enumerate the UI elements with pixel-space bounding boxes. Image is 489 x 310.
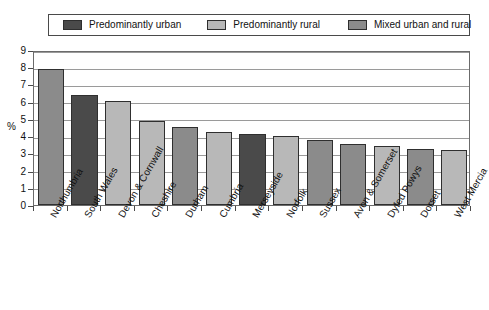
y-tick-label: 8 xyxy=(20,63,26,73)
legend-swatch-mixed xyxy=(348,20,367,30)
legend-item-urban: Predominantly urban xyxy=(63,15,181,35)
y-tick-label: 1 xyxy=(20,184,26,194)
legend-label-urban: Predominantly urban xyxy=(89,20,181,30)
y-tick-label: 9 xyxy=(20,46,26,56)
legend-label-mixed: Mixed urban and rural xyxy=(374,20,471,30)
y-tick-label: 7 xyxy=(20,80,26,90)
y-tick-label: 2 xyxy=(20,167,26,177)
legend-item-rural: Predominantly rural xyxy=(207,15,320,35)
x-axis-labels: NorthumbriaSouth WalesDevon & CornwallCh… xyxy=(0,206,487,306)
y-tick-label: 5 xyxy=(20,115,26,125)
y-tick-label: 4 xyxy=(20,132,26,142)
bar xyxy=(38,69,64,205)
legend-swatch-rural xyxy=(207,20,226,30)
legend-item-mixed: Mixed urban and rural xyxy=(348,15,471,35)
chart-legend: Predominantly urban Predominantly rural … xyxy=(48,14,470,36)
legend-label-rural: Predominantly rural xyxy=(233,20,320,30)
y-axis: 0123456789 xyxy=(0,51,33,206)
legend-swatch-urban xyxy=(63,20,82,30)
y-tick-label: 6 xyxy=(20,98,26,108)
y-tick-label: 3 xyxy=(20,149,26,159)
y-axis-title: % xyxy=(7,122,16,132)
